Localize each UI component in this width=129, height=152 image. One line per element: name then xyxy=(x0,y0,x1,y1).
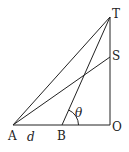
label-distance-d: d xyxy=(27,130,35,144)
segment-AS xyxy=(13,57,110,125)
label-A: A xyxy=(7,129,17,143)
label-S: S xyxy=(112,49,120,63)
label-angle-theta: θ xyxy=(75,106,83,120)
label-B: B xyxy=(57,129,66,143)
geometry-diagram: T S O A B d θ xyxy=(0,0,129,152)
label-T: T xyxy=(112,7,120,21)
segment-AT xyxy=(13,17,110,125)
segment-BT xyxy=(62,17,110,125)
label-O: O xyxy=(112,120,122,134)
